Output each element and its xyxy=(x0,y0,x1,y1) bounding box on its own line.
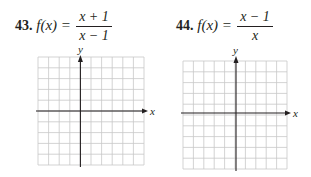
denominator: x − 1 xyxy=(76,28,112,44)
fraction-bar xyxy=(237,26,273,27)
function-lhs: f(x) = xyxy=(36,17,71,33)
coordinate-grid-44: x y xyxy=(175,48,311,176)
coordinate-grid-43: x y xyxy=(30,44,160,172)
x-axis-arrow-icon xyxy=(142,109,148,114)
y-axis-label: y xyxy=(77,44,83,55)
numerator: x − 1 xyxy=(237,9,273,25)
problem-number: 43. xyxy=(15,18,33,33)
y-axis-arrow-icon xyxy=(78,55,83,62)
x-axis-label: x xyxy=(292,107,298,119)
numerator: x + 1 xyxy=(76,9,112,25)
grid-lines xyxy=(183,61,287,169)
denominator: x xyxy=(237,28,273,44)
function-fraction: x − 1 x xyxy=(237,9,273,44)
function-lhs: f(x) = xyxy=(197,17,232,33)
problem-number: 44. xyxy=(176,18,194,33)
y-axis-label: y xyxy=(232,48,238,56)
y-axis-arrow-icon xyxy=(234,56,239,63)
problem-43-label: 43. f(x) = xyxy=(15,17,71,34)
function-fraction: x + 1 x − 1 xyxy=(76,9,112,44)
x-axis-label: x xyxy=(149,105,155,117)
fraction-bar xyxy=(76,26,112,27)
x-axis-arrow-icon xyxy=(285,111,291,116)
problem-44-label: 44. f(x) = xyxy=(176,17,232,34)
